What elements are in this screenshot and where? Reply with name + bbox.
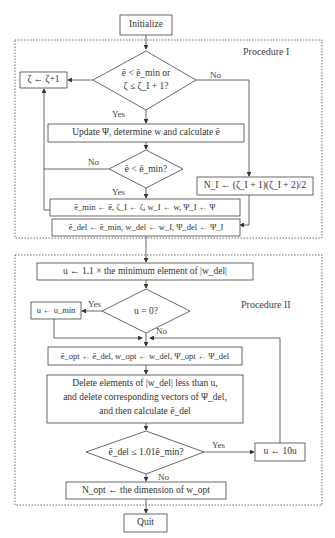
edge-yes-2: Yes <box>112 187 125 197</box>
quit-label: Quit <box>124 517 167 528</box>
assign-opt-label: ē_opt ← ē_del, w_opt ← w_del, Ψ_opt ← Ψ_… <box>48 351 242 362</box>
n-opt-label: N_opt ← the dimension of w_opt <box>66 485 226 496</box>
edge-yes-3: Yes <box>88 299 101 309</box>
assign-min-label: ē_min ← ē, ζ_I ← ζ, w_I ← w, Ψ_I ← Ψ <box>50 202 240 213</box>
initialize-label: Initialize <box>120 19 172 30</box>
n1-label: N_I ← (ζ_I + 1)(ζ_I + 2)/2 <box>197 180 313 191</box>
delete-line2: and delete corresponding vectors of Ψ_de… <box>47 392 243 403</box>
decision-u-zero-label: u = 0? <box>116 306 176 317</box>
decision-1-line1: ē < ē_min or <box>106 68 186 79</box>
zeta-increment-label: ζ ← ζ+1 <box>20 74 67 85</box>
assign-del-label: ē_del ← ē_min, w_del ← w_I, Ψ_del ← Ψ_I <box>52 222 240 233</box>
procedure-1-label: Procedure I <box>243 46 289 57</box>
procedure-2-label: Procedure II <box>241 299 291 310</box>
edge-no-1: No <box>210 70 221 80</box>
u-min-label: u ← u_min <box>31 305 81 316</box>
edge-no-3: No <box>156 326 167 336</box>
decision-1-line2: ζ ≤ ζ_I + 1? <box>106 81 186 92</box>
delete-line3: and then calculate ē_del <box>47 406 243 417</box>
u-10-label: u ← 10u <box>255 446 305 457</box>
edge-no-2: No <box>88 157 99 167</box>
u-init-label: u ← 1.1 × the minimum element of |w_del| <box>37 266 253 277</box>
edge-yes-1: Yes <box>112 109 125 119</box>
edge-no-4: No <box>158 472 169 482</box>
decision-2-label: ē < ē_min? <box>116 164 176 175</box>
edge-yes-4: Yes <box>212 440 225 450</box>
delete-line1: Delete elements of |w_del| less than u, <box>47 378 243 389</box>
decision-3-label: ē_del ≤ 1.01ē_min? <box>96 447 196 458</box>
update-label: Update Ψ, determine w and calculate ē <box>48 127 244 138</box>
